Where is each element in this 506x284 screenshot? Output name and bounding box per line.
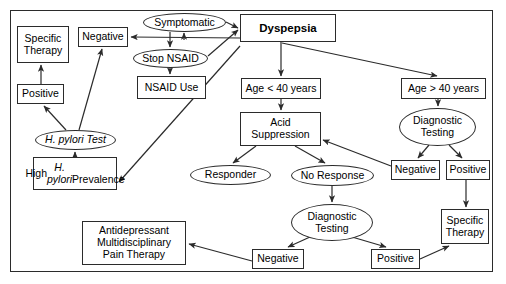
node-specific-therapy-right[interactable]: Specific Therapy [441,209,489,244]
node-symptomatic[interactable]: Symptomatic [143,13,226,32]
node-positive-left[interactable]: Positive [17,84,64,104]
node-positive-bottom[interactable]: Positive [371,249,420,269]
node-age-under-40[interactable]: Age < 40 years [241,78,321,99]
node-diagnostic-testing-right[interactable]: Diagnostic Testing [399,108,476,146]
node-nsaid-use[interactable]: NSAID Use [137,76,206,99]
node-no-response[interactable]: No Response [291,165,374,186]
node-negative-right[interactable]: Negative [391,160,440,180]
node-dyspepsia[interactable]: Dyspepsia [240,14,336,42]
node-age-over-40[interactable]: Age > 40 years [401,78,486,99]
node-responder[interactable]: Responder [190,165,271,185]
node-high-h-pylori-prevalence[interactable]: High H. pylori Prevalence [33,157,117,190]
node-acid-suppression[interactable]: Acid Suppression [240,112,321,146]
node-stop-nsaid[interactable]: Stop NSAID [133,49,208,68]
node-antidepressant-therapy[interactable]: Antidepressant Multidisciplinary Pain Th… [82,221,186,265]
node-diagnostic-testing-mid[interactable]: Diagnostic Testing [291,204,373,241]
diagram-canvas: Specific Therapy Negative Symptomatic Dy… [0,0,506,284]
node-negative-bottom[interactable]: Negative [252,249,304,269]
node-positive-right[interactable]: Positive [446,160,490,180]
node-specific-therapy-left[interactable]: Specific Therapy [17,26,69,63]
node-negative-top[interactable]: Negative [78,27,128,47]
node-h-pylori-test[interactable]: H. pylori Test [35,130,116,150]
